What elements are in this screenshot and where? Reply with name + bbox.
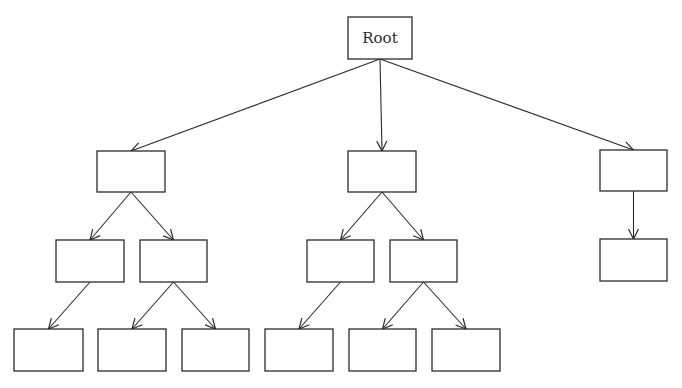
node-box — [600, 150, 667, 191]
arrow-edge-b-b1 — [341, 192, 383, 240]
node-label: Root — [362, 29, 397, 47]
tree-node — [182, 329, 249, 371]
node-box — [307, 240, 374, 282]
node-box — [390, 240, 457, 282]
arrow-edge-root-a — [131, 59, 380, 151]
node-box — [56, 240, 124, 282]
tree-node — [600, 150, 667, 191]
node-box — [432, 329, 500, 371]
tree-node — [98, 329, 166, 371]
node-box — [349, 329, 416, 371]
root-node: Root — [348, 17, 412, 59]
node-box — [265, 329, 333, 371]
tree-node — [348, 151, 416, 192]
tree-node — [432, 329, 500, 371]
tree-node — [600, 239, 667, 281]
arrow-edge-root-c — [380, 59, 634, 150]
arrow-edge-a-a2 — [131, 192, 174, 240]
node-box — [97, 151, 165, 192]
arrow-edge-a2-a2a — [132, 282, 174, 329]
tree-node — [390, 240, 457, 282]
tree-node — [265, 329, 333, 371]
tree-node — [56, 240, 124, 282]
arrow-edge-b1-b1a — [299, 282, 341, 329]
arrow-edge-b2-b2b — [424, 282, 467, 329]
tree-node — [349, 329, 416, 371]
node-box — [600, 239, 667, 281]
tree-node — [307, 240, 374, 282]
tree-diagram: Root — [0, 0, 682, 388]
node-box — [98, 329, 166, 371]
arrow-edge-b-b2 — [382, 192, 424, 240]
edges-layer — [49, 59, 634, 329]
node-box — [140, 240, 207, 282]
node-box — [182, 329, 249, 371]
tree-node — [97, 151, 165, 192]
nodes-layer: Root — [14, 17, 667, 371]
arrow-edge-a1-a1a — [49, 282, 91, 329]
arrow-edge-b2-b2a — [383, 282, 424, 329]
node-box — [14, 329, 83, 371]
tree-node — [14, 329, 83, 371]
node-box — [348, 151, 416, 192]
arrow-edge-root-b — [380, 59, 382, 151]
arrow-edge-a2-a2b — [174, 282, 216, 329]
tree-node — [140, 240, 207, 282]
arrow-edge-a-a1 — [90, 192, 131, 240]
